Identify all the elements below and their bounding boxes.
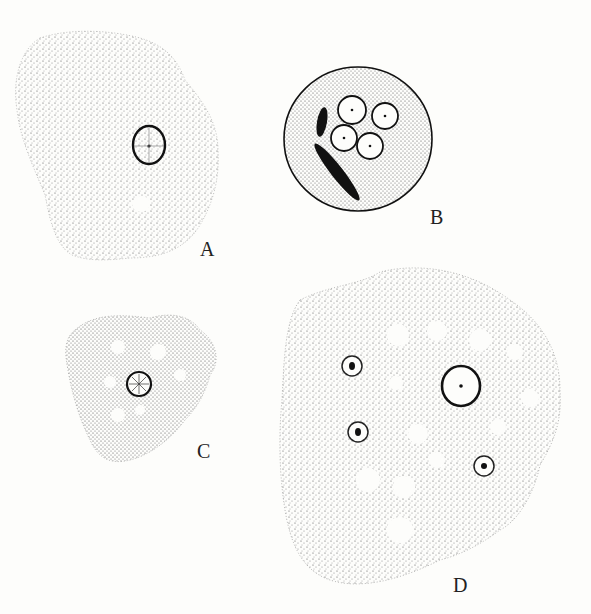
panel-c-cell	[66, 315, 216, 461]
panel-label-a: A	[200, 238, 214, 261]
panel-a-vacuole	[132, 196, 150, 212]
panel-a-cell	[16, 31, 219, 260]
panel-label-d: D	[453, 574, 467, 597]
panel-label-b: B	[430, 206, 443, 229]
figure-canvas	[0, 0, 591, 614]
panel-c-nucleus	[127, 372, 151, 396]
panel-d-nucleus	[442, 366, 480, 406]
panel-d-cell	[280, 268, 560, 584]
panel-label-c: C	[197, 440, 210, 463]
panel-b-cyst	[284, 67, 432, 211]
